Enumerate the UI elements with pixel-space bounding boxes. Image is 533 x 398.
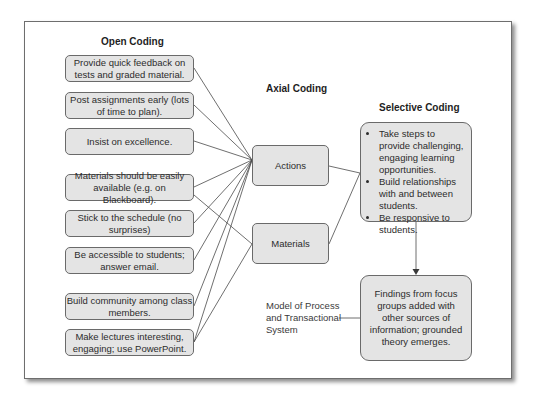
- selective-code-box: Take steps to provide challenging, engag…: [360, 122, 472, 222]
- heading-axial-coding: Axial Coding: [266, 83, 327, 94]
- selective-code-list: Take steps to provide challenging, engag…: [365, 128, 467, 236]
- selective-code-item: Build relationships with and between stu…: [379, 176, 467, 212]
- heading-open-coding: Open Coding: [101, 36, 164, 47]
- model-label: Model of Process and Transactional Syste…: [266, 300, 341, 336]
- selective-code-item: Be responsive to students.: [379, 212, 467, 236]
- open-code-box: Materials should be easily available (e.…: [65, 174, 194, 201]
- open-code-box: Be accessible to students; answer email.: [65, 247, 194, 274]
- open-code-box: Make lectures interesting, engaging; use…: [65, 329, 194, 356]
- open-code-box: Stick to the schedule (no surprises): [65, 210, 194, 237]
- open-code-box: Insist on excellence.: [65, 128, 194, 155]
- open-code-box: Post assignments early (lots of time to …: [65, 92, 194, 119]
- axial-code-materials: Materials: [252, 223, 329, 264]
- findings-box: Findings from focus groups added with ot…: [360, 275, 472, 361]
- open-code-box: Provide quick feedback on tests and grad…: [65, 55, 194, 82]
- axial-code-actions: Actions: [252, 145, 329, 186]
- selective-code-item: Take steps to provide challenging, engag…: [379, 128, 467, 176]
- heading-selective-coding: Selective Coding: [379, 102, 460, 113]
- open-code-box: Build community among class members.: [65, 293, 194, 320]
